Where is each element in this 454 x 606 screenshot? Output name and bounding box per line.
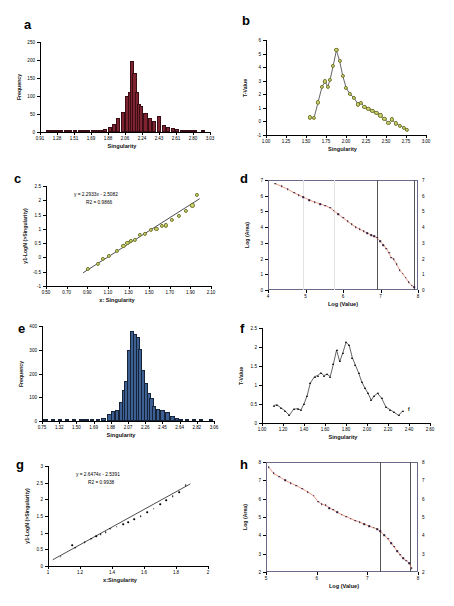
data-point: [370, 399, 372, 401]
data-point: [399, 554, 401, 556]
data-point: [393, 546, 395, 548]
data-point: [166, 499, 168, 501]
data-point: [338, 213, 340, 215]
data-point: [297, 408, 299, 410]
data-point: [396, 263, 398, 265]
x-tick-label-e: 2.07: [124, 425, 133, 430]
data-point: [345, 516, 347, 518]
data-point: [347, 221, 349, 223]
x-tick-label-e: 0.75: [38, 425, 47, 430]
data-point: [399, 269, 401, 271]
x-tick-e: [94, 421, 95, 424]
data-point: [350, 518, 352, 520]
data-point: [279, 476, 281, 478]
y-tick-label-a: 50: [21, 112, 35, 117]
x-tick-label-e: 1.50: [72, 425, 81, 430]
histogram-bar: [152, 121, 156, 132]
series-f: [238, 322, 448, 454]
data-point: [355, 520, 357, 522]
data-point: [411, 568, 413, 570]
histogram-bar: [193, 130, 197, 132]
data-point: [288, 414, 290, 416]
data-point: [405, 560, 407, 562]
x-tick-label-a: 1.51: [70, 136, 79, 141]
data-point: [332, 509, 334, 511]
data-point: [178, 491, 180, 493]
data-point: [325, 505, 327, 507]
x-tick-e: [214, 421, 215, 424]
y-tick-e: [39, 421, 42, 422]
data-point: [172, 495, 174, 497]
y-tick-label-e: 200: [23, 371, 37, 376]
histogram-bar: [79, 419, 83, 421]
data-point: [273, 405, 275, 407]
data-point: [333, 210, 335, 212]
data-point: [296, 485, 298, 487]
x-tick-label-e: 1.88: [107, 425, 116, 430]
histogram-bar: [165, 412, 169, 421]
data-point: [391, 257, 393, 259]
y-tick-label-a: 250: [21, 40, 35, 45]
histogram-bar: [68, 130, 72, 132]
data-point: [373, 236, 375, 238]
data-point: [319, 203, 321, 205]
x-tick-e: [111, 421, 112, 424]
data-point: [354, 364, 356, 366]
x-tick-a: [74, 132, 75, 135]
data-point: [314, 376, 316, 378]
x-tick-label-a: 3.03: [206, 136, 215, 141]
series-h: [238, 458, 450, 600]
data-point: [159, 504, 161, 506]
data-point: [313, 495, 315, 497]
x-tick-e: [145, 421, 146, 424]
histogram-bar: [43, 419, 47, 421]
data-point: [281, 186, 283, 188]
data-point: [329, 376, 331, 378]
y-tick-label-a: 100: [21, 94, 35, 99]
data-point: [351, 223, 353, 225]
data-point: [402, 558, 404, 560]
histogram-bar: [199, 419, 203, 421]
x-tick-a: [108, 132, 109, 135]
histogram-bar: [209, 419, 213, 421]
y-tick-a: [37, 42, 40, 43]
y-tick-label-e: 400: [23, 324, 37, 329]
data-point: [408, 562, 410, 564]
data-point: [393, 411, 395, 413]
y-tick-label-a: 150: [21, 76, 35, 81]
histogram-bar: [179, 419, 183, 421]
x-tick-label-e: 1.32: [55, 425, 64, 430]
panel-a: a0.911.281.511.691.882.062.242.432.612.8…: [22, 18, 222, 168]
data-point: [383, 244, 385, 246]
data-point: [100, 534, 102, 536]
data-point: [373, 527, 375, 529]
histogram-bar: [175, 129, 179, 132]
data-point: [381, 397, 383, 399]
data-point: [306, 395, 308, 397]
x-tick-a: [142, 132, 143, 135]
histogram-bar: [65, 419, 69, 421]
data-point: [364, 523, 366, 525]
data-point: [60, 556, 62, 558]
data-point: [276, 404, 278, 406]
data-point: [380, 531, 382, 533]
histogram-bar: [185, 419, 189, 421]
data-point: [363, 231, 365, 233]
histogram-bar: [72, 419, 76, 421]
data-point: [90, 538, 92, 540]
data-point: [127, 521, 129, 523]
x-tick-label-a: 2.43: [155, 136, 164, 141]
data-point: [368, 525, 370, 527]
panel-label-a: a: [24, 18, 31, 31]
data-point: [359, 228, 361, 230]
data-point: [345, 341, 347, 343]
data-point: [396, 550, 398, 552]
y-axis-title-a: Frequency: [16, 74, 22, 100]
data-point: [303, 403, 305, 405]
data-point: [332, 363, 334, 365]
y-tick-e: [39, 397, 42, 398]
data-point: [408, 281, 410, 283]
data-point: [389, 409, 391, 411]
data-point: [153, 508, 155, 510]
data-point: [71, 545, 73, 547]
